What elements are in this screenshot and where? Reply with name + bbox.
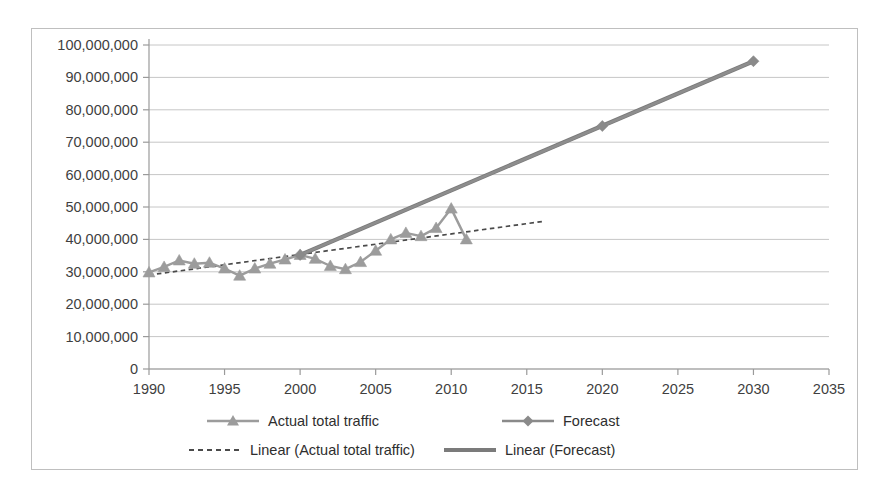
legend-item-linear-forecast[interactable]: Linear (Forecast)	[444, 442, 615, 458]
legend-label: Linear (Forecast)	[505, 442, 615, 458]
y-axis-tick-label: 50,000,000	[65, 199, 138, 215]
y-axis-tick-label: 60,000,000	[65, 167, 138, 183]
data-point-marker-actual	[460, 233, 472, 244]
x-axis-tick-label: 2005	[360, 381, 392, 397]
y-axis-tick-label: 70,000,000	[65, 134, 138, 150]
x-axis-tick-label: 2010	[435, 381, 467, 397]
y-axis-tick-label: 80,000,000	[65, 102, 138, 118]
legend-label: Linear (Actual total traffic)	[250, 442, 415, 458]
series-line-forecast	[300, 61, 753, 255]
data-point-marker-actual	[400, 227, 412, 238]
x-axis-tick-label: 2030	[737, 381, 769, 397]
y-axis-tick-label: 90,000,000	[65, 69, 138, 85]
legend-item-actual-total-traffic[interactable]: Actual total traffic	[207, 413, 379, 429]
x-axis-tick-label: 2000	[284, 381, 316, 397]
chart-container: 010,000,00020,000,00030,000,00040,000,00…	[31, 28, 858, 470]
x-axis-tick-label: 1995	[208, 381, 240, 397]
y-axis-tick-label: 30,000,000	[65, 264, 138, 280]
data-point-marker-actual	[173, 254, 185, 265]
legend-label: Forecast	[563, 413, 619, 429]
data-point-marker-actual	[445, 203, 457, 214]
x-axis-tick-label: 2015	[511, 381, 543, 397]
y-axis-tick-label: 40,000,000	[65, 231, 138, 247]
legend-marker-diamond-icon	[523, 416, 534, 427]
x-axis-tick-label: 1990	[133, 381, 165, 397]
y-axis-tick-label: 10,000,000	[65, 329, 138, 345]
legend-item-linear-actual-total-traffic[interactable]: Linear (Actual total traffic)	[189, 442, 415, 458]
legend-label: Actual total traffic	[268, 413, 379, 429]
x-axis-tick-label: 2025	[662, 381, 694, 397]
x-axis-tick-label: 2035	[813, 381, 845, 397]
y-axis-tick-label: 0	[130, 361, 138, 377]
legend-item-forecast[interactable]: Forecast	[502, 413, 619, 429]
y-axis-tick-label: 100,000,000	[57, 37, 138, 53]
x-axis-tick-label: 2020	[586, 381, 618, 397]
chart-plot-area: 010,000,00020,000,00030,000,00040,000,00…	[32, 29, 859, 471]
y-axis-tick-label: 20,000,000	[65, 296, 138, 312]
